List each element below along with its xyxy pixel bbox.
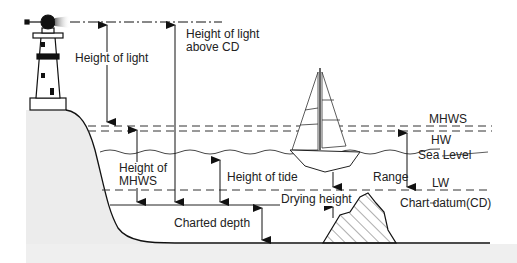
height-of-light-label: Height of light [74,52,149,65]
height-of-mhws-label-2: MHWS [118,175,158,188]
charted-depth-label: Charted depth [174,217,250,230]
height-of-tide-label: Height of tide [227,171,298,184]
hw-label: HW [431,134,451,147]
range-label: Range [373,171,408,184]
height-of-light-above-cd-label-2: above CD [186,41,239,54]
lw-label: LW [432,177,449,190]
tide-diagram: Height of light Height of light above CD… [0,0,517,263]
drying-height-label: Drying height [280,193,353,206]
sea-level-label: Sea Level [418,149,471,162]
mhws-label: MHWS [429,113,467,126]
chart-datum-label: Chart datum(CD) [400,197,491,210]
